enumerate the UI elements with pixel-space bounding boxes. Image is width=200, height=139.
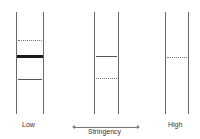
- lane-medium-left-rail: [94, 12, 95, 114]
- lane-label-low: Low: [22, 121, 35, 128]
- lane-low-band-solid: [18, 79, 42, 80]
- lane-high-left-rail: [165, 12, 166, 114]
- stringency-axis-label: Stringency: [88, 128, 121, 135]
- lane-low-left-rail: [16, 12, 17, 114]
- lane-label-high: High: [168, 121, 182, 128]
- lane-high-right-rail: [188, 12, 189, 114]
- lane-low-band-thick: [17, 55, 43, 58]
- lane-high-band-dotted: [167, 57, 187, 58]
- lane-medium-right-rail: [118, 12, 119, 114]
- lane-low-band-dotted: [18, 40, 42, 41]
- lane-medium-band-solid: [96, 56, 117, 57]
- arrow-right-head-icon: [137, 125, 140, 129]
- lane-medium-band-dotted: [96, 78, 117, 79]
- arrow-left-head-icon: [72, 125, 75, 129]
- lane-low-right-rail: [43, 12, 44, 114]
